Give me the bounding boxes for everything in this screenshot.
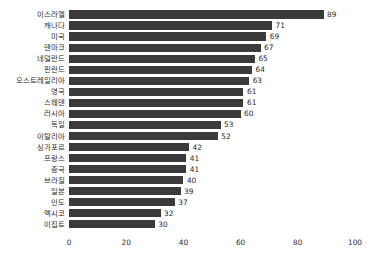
bar-row: 핀란드64 (0, 64, 386, 75)
bar-value-label: 89 (324, 9, 337, 20)
category-label: 오스트레일리아 (16, 75, 65, 86)
bar-fill (69, 187, 181, 195)
bar-row: 프랑스41 (0, 153, 386, 164)
bar (69, 187, 181, 195)
bar-value-label: 40 (183, 175, 196, 186)
bar-row: 캐나다71 (0, 20, 386, 31)
bar-fill (69, 77, 249, 85)
category-label: 이집트 (44, 219, 65, 230)
bar-value-label: 69 (266, 31, 279, 42)
category-label: 영국 (51, 86, 65, 97)
category-label: 덴마크 (44, 42, 65, 53)
bar-fill (69, 165, 186, 173)
bar-fill (69, 209, 161, 217)
bar-fill (69, 10, 324, 18)
bar (69, 121, 221, 129)
bar-row: 덴마크67 (0, 42, 386, 53)
bar-row: 독일53 (0, 119, 386, 130)
bar-value-label: 41 (186, 153, 199, 164)
bar-value-label: 61 (243, 86, 256, 97)
bar-row: 싱가포르42 (0, 142, 386, 153)
bar-row: 스웨덴61 (0, 97, 386, 108)
bar-row: 러시아60 (0, 108, 386, 119)
bar-value-label: 63 (249, 75, 262, 86)
bar-value-label: 65 (255, 53, 268, 64)
bar (69, 220, 155, 228)
bar-row: 멕시코32 (0, 208, 386, 219)
bar-value-label: 71 (272, 20, 285, 31)
bar (69, 198, 175, 206)
bar-row: 미국69 (0, 31, 386, 42)
category-label: 멕시코 (44, 208, 65, 219)
category-label: 스웨덴 (44, 97, 65, 108)
category-label: 브라질 (44, 175, 65, 186)
bar-value-label: 52 (218, 131, 231, 142)
bar-row: 네덜란드65 (0, 53, 386, 64)
bar-fill (69, 198, 175, 206)
category-label: 캐나다 (44, 20, 65, 31)
bar (69, 32, 266, 40)
bar-row: 브라질40 (0, 175, 386, 186)
bar-fill (69, 55, 255, 63)
bar-value-label: 64 (252, 64, 265, 75)
bar-value-label: 32 (161, 208, 174, 219)
x-tick-label: 40 (179, 238, 188, 247)
bar-value-label: 60 (241, 108, 254, 119)
bar-fill (69, 121, 221, 129)
bar (69, 110, 241, 118)
bar (69, 99, 243, 107)
category-label: 일본 (51, 186, 65, 197)
category-label: 미국 (51, 31, 65, 42)
bar-fill (69, 110, 241, 118)
category-label: 중국 (51, 164, 65, 175)
bar-rows: 이스라엘89캐나다71미국69덴마크67네덜란드65핀란드64오스트레일리아63… (0, 9, 386, 230)
bar-fill (69, 154, 186, 162)
bar-fill (69, 88, 243, 96)
category-label: 네덜란드 (37, 53, 65, 64)
category-label: 독일 (51, 119, 65, 130)
bar-fill (69, 176, 183, 184)
bar-row: 일본39 (0, 186, 386, 197)
bar-value-label: 61 (243, 97, 256, 108)
category-label: 싱가포르 (37, 142, 65, 153)
bar-chart: 이스라엘89캐나다71미국69덴마크67네덜란드65핀란드64오스트레일리아63… (0, 0, 386, 269)
bar (69, 55, 255, 63)
category-label: 핀란드 (44, 64, 65, 75)
bar-fill (69, 44, 261, 52)
bar-value-label: 37 (175, 197, 188, 208)
bar-value-label: 30 (155, 219, 168, 230)
bar-value-label: 39 (181, 186, 194, 197)
bar-row: 이스라엘89 (0, 9, 386, 20)
bar-value-label: 42 (189, 142, 202, 153)
bar (69, 154, 186, 162)
bar (69, 21, 272, 29)
x-tick-label: 60 (236, 238, 245, 247)
bar (69, 88, 243, 96)
bar (69, 66, 252, 74)
bar-fill (69, 99, 243, 107)
bar (69, 77, 249, 85)
bar-value-label: 41 (186, 164, 199, 175)
x-axis: 020406080100 (0, 238, 386, 258)
category-label: 인도 (51, 197, 65, 208)
x-tick-label: 20 (121, 238, 130, 247)
bar-row: 오스트레일리아63 (0, 75, 386, 86)
bar (69, 209, 161, 217)
category-label: 러시아 (44, 108, 65, 119)
bar (69, 132, 218, 140)
bar-fill (69, 132, 218, 140)
bar-fill (69, 143, 189, 151)
bar (69, 10, 324, 18)
bar-fill (69, 32, 266, 40)
bar-fill (69, 220, 155, 228)
x-tick-label: 80 (293, 238, 302, 247)
bar (69, 165, 186, 173)
bar-fill (69, 66, 252, 74)
bar-row: 인도37 (0, 197, 386, 208)
bar-row: 이집트30 (0, 219, 386, 230)
bar-value-label: 53 (221, 119, 234, 130)
bar (69, 176, 183, 184)
category-label: 이탈리아 (37, 131, 65, 142)
bar-row: 이탈리아52 (0, 131, 386, 142)
x-tick-label: 0 (67, 238, 72, 247)
